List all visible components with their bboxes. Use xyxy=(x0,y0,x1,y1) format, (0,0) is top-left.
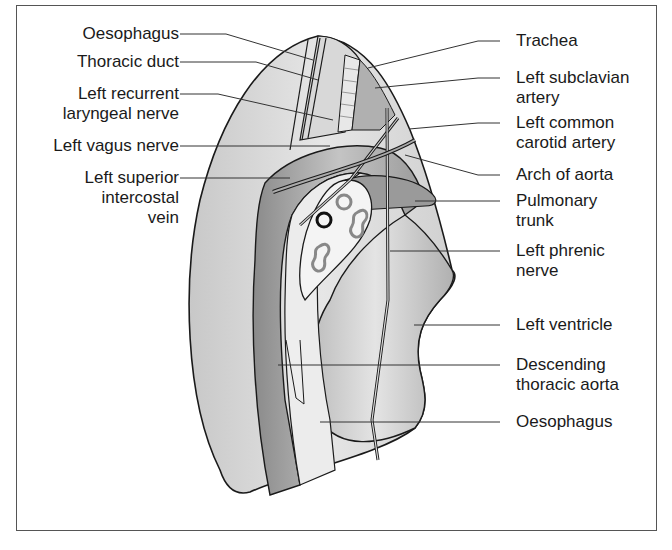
label-pulmonary-trunk: Pulmonary trunk xyxy=(516,191,597,231)
label-left-superior-intercostal-vein: Left superior intercostal vein xyxy=(85,168,180,228)
label-arch-of-aorta: Arch of aorta xyxy=(516,165,613,185)
label-trachea: Trachea xyxy=(516,31,578,51)
label-thoracic-duct: Thoracic duct xyxy=(77,52,179,72)
label-left-recurrent-laryngeal-nerve: Left recurrent laryngeal nerve xyxy=(63,84,179,124)
label-oesophagus-top: Oesophagus xyxy=(83,24,179,44)
label-oesophagus-bottom: Oesophagus xyxy=(516,412,612,432)
label-left-vagus-nerve: Left vagus nerve xyxy=(53,136,179,156)
label-left-ventricle: Left ventricle xyxy=(516,315,612,335)
label-left-phrenic-nerve: Left phrenic nerve xyxy=(516,241,605,281)
label-descending-thoracic-aorta: Descending thoracic aorta xyxy=(516,355,619,395)
label-left-subclavian-artery: Left subclavian artery xyxy=(516,68,629,108)
label-left-common-carotid-artery: Left common carotid artery xyxy=(516,113,615,153)
